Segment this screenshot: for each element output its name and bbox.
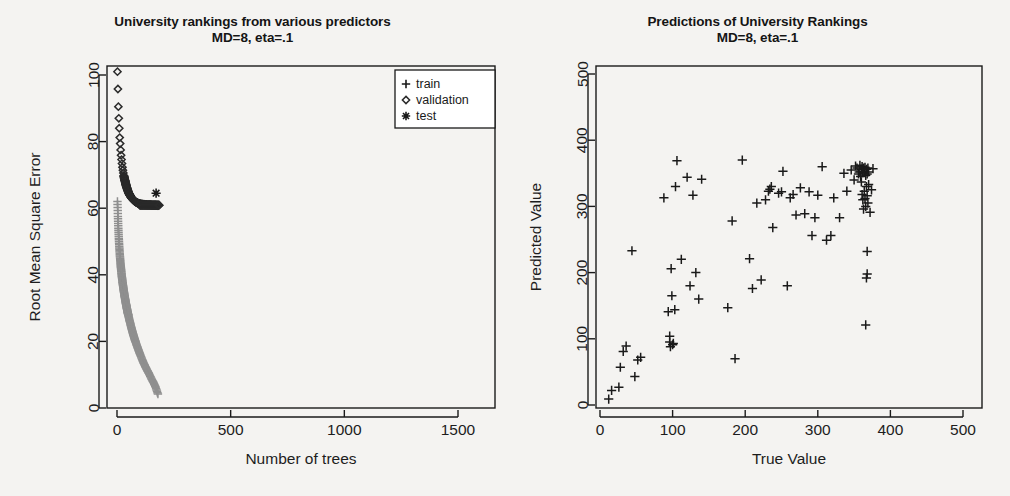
scatter-point: [616, 363, 625, 372]
scatter-point: [861, 320, 870, 329]
right-scatter-points: [604, 155, 877, 403]
scatter-point: [783, 281, 792, 290]
scatter-point: [672, 156, 681, 165]
left-y-tick-label: 100: [85, 62, 102, 88]
scatter-point: [677, 255, 686, 264]
legend-item-label: validation: [416, 93, 469, 107]
left-y-tick-label: 60: [85, 199, 102, 217]
left-legend: trainvalidationtest: [395, 70, 495, 128]
left-x-tick-label: 500: [218, 421, 244, 438]
scatter-point: [688, 191, 697, 200]
right-x-tick-label: 400: [877, 421, 903, 438]
scatter-point: [822, 236, 831, 245]
legend-item-label: train: [416, 77, 440, 91]
scatter-point: [768, 223, 777, 232]
scatter-point: [804, 187, 813, 196]
left-series-train: [113, 197, 162, 398]
scatter-point: [659, 193, 668, 202]
right-x-tick-label: 300: [805, 421, 831, 438]
validation-point: [115, 103, 122, 110]
legend-asterisk-icon: [402, 112, 410, 120]
left-plot-svg: 020406080100Root Mean Square Error050010…: [0, 0, 505, 496]
right-y-tick-label: 300: [574, 193, 591, 219]
left-y-tick-label: 40: [85, 266, 102, 284]
validation-point: [116, 125, 123, 132]
scatter-point: [863, 247, 872, 256]
left-x-axis-title: Number of trees: [245, 450, 356, 467]
scatter-point: [791, 210, 800, 219]
test-point: [152, 189, 161, 198]
scatter-point: [667, 264, 676, 273]
scatter-point: [664, 307, 673, 316]
scatter-point: [826, 231, 835, 240]
right-y-tick-label: 400: [574, 127, 591, 153]
scatter-point: [778, 167, 787, 176]
scatter-point: [630, 372, 639, 381]
right-x-tick-label: 200: [732, 421, 758, 438]
left-x-tick-label: 0: [113, 421, 122, 438]
left-x-tick-label: 1500: [441, 421, 476, 438]
validation-point: [114, 68, 121, 75]
scatter-point: [761, 195, 770, 204]
legend-item-label: test: [416, 109, 437, 123]
scatter-point: [807, 231, 816, 240]
right-y-tick-label: 0: [574, 400, 591, 409]
right-x-axis: 0100200300400500True Value: [596, 410, 977, 467]
scatter-point: [813, 191, 822, 200]
scatter-point: [670, 305, 679, 314]
left-x-tick-label: 1000: [327, 421, 362, 438]
right-y-axis-title: Predicted Value: [527, 183, 544, 291]
scatter-point: [829, 193, 838, 202]
right-y-axis: 0100200300400500Predicted Value: [527, 61, 596, 410]
scatter-point: [818, 162, 827, 171]
scatter-point: [683, 173, 692, 182]
left-series-test: [152, 189, 161, 198]
scatter-point: [730, 354, 739, 363]
scatter-point: [745, 254, 754, 263]
scatter-point: [697, 175, 706, 184]
scatter-point: [862, 273, 871, 282]
left-series-validation: [114, 68, 163, 209]
left-x-axis: 050010001500Number of trees: [113, 410, 476, 467]
right-y-tick-label: 200: [574, 259, 591, 285]
scatter-point: [757, 275, 766, 284]
right-x-tick-label: 500: [950, 421, 976, 438]
scatter-point: [800, 209, 809, 218]
right-x-tick-label: 100: [660, 421, 686, 438]
figure-canvas: University rankings from various predict…: [0, 0, 1010, 496]
scatter-point: [667, 291, 676, 300]
scatter-point: [810, 213, 819, 222]
right-x-axis-title: True Value: [752, 450, 826, 467]
scatter-point: [842, 187, 851, 196]
right-x-tick-label: 0: [596, 421, 605, 438]
left-y-axis: 020406080100Root Mean Square Error: [26, 62, 107, 413]
scatter-point: [796, 183, 805, 192]
scatter-point: [685, 281, 694, 290]
scatter-point: [627, 246, 636, 255]
validation-point: [114, 85, 121, 92]
scatter-point: [691, 268, 700, 277]
scatter-point: [723, 303, 732, 312]
right-y-tick-label: 100: [574, 325, 591, 351]
scatter-point: [738, 155, 747, 164]
scatter-point: [752, 198, 761, 207]
right-plot-svg: 0100200300400500Predicted Value010020030…: [505, 0, 1010, 496]
right-plot-frame: [596, 66, 982, 408]
scatter-point: [671, 182, 680, 191]
left-y-tick-label: 20: [85, 332, 102, 350]
left-y-axis-title: Root Mean Square Error: [26, 153, 43, 322]
panel-predicted-vs-true: Predictions of University Rankings MD=8,…: [505, 0, 1010, 496]
scatter-point: [748, 284, 757, 293]
right-y-tick-label: 500: [574, 61, 591, 87]
scatter-point: [694, 294, 703, 303]
left-y-tick-label: 0: [85, 403, 102, 412]
scatter-point: [835, 213, 844, 222]
scatter-point: [728, 216, 737, 225]
validation-point: [115, 115, 122, 122]
panel-rmse-vs-trees: University rankings from various predict…: [0, 0, 505, 496]
scatter-point: [604, 394, 613, 403]
left-y-tick-label: 80: [85, 133, 102, 151]
